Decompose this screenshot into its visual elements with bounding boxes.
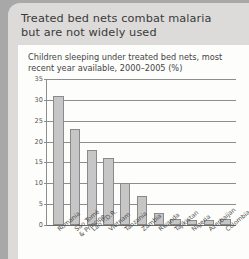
plot-wrapper: 05101520253035 RomaniaSão Tomé& Principe… xyxy=(18,75,249,259)
figure-title: Treated bed nets combat malaria but are … xyxy=(21,12,233,40)
y-axis-tick-label: 10 xyxy=(21,180,43,188)
y-axis-tick-label: 30 xyxy=(21,96,43,104)
bar-series xyxy=(46,79,236,226)
x-axis-labels: RomaniaSão Tomé& PrincipeLao P.D.R.Vietn… xyxy=(46,227,249,259)
screenshot-root: Treated bed nets combat malaria but are … xyxy=(0,0,249,259)
figure-card: Treated bed nets combat malaria but are … xyxy=(8,3,249,259)
y-axis-tick-label: 25 xyxy=(21,117,43,125)
chart-panel: Children sleeping under treated bed nets… xyxy=(18,45,249,259)
y-axis-tick-label: 20 xyxy=(21,138,43,146)
y-axis-tick-label: 5 xyxy=(21,201,43,209)
y-axis-tick-label: 35 xyxy=(21,75,43,83)
y-axis-tick-label: 15 xyxy=(21,159,43,167)
y-axis-tick-label: 0 xyxy=(21,221,43,229)
chart-subtitle: Children sleeping under treated bed nets… xyxy=(28,52,233,74)
bar xyxy=(53,96,63,225)
plot-area: 05101520253035 xyxy=(46,79,236,226)
